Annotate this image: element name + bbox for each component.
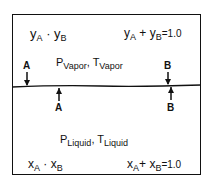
arrow-label-a-down: A xyxy=(23,61,30,71)
vapor-sum-equation: yA + yB=1.0 xyxy=(124,27,181,42)
liquid-sum-equation: xA+ xB=1.0 xyxy=(127,158,181,173)
vapor-mole-fractions: yA · yB xyxy=(30,27,67,43)
vapor-conditions: PVapor, TVapor xyxy=(56,57,123,71)
liquid-mole-fractions: xA · xB xyxy=(28,158,63,173)
liquid-conditions: PLiquid, TLiquid xyxy=(60,134,128,148)
arrow-label-a-up: A xyxy=(55,103,62,113)
arrow-label-b-up: B xyxy=(167,103,174,113)
arrow-label-b-down: B xyxy=(164,61,171,71)
